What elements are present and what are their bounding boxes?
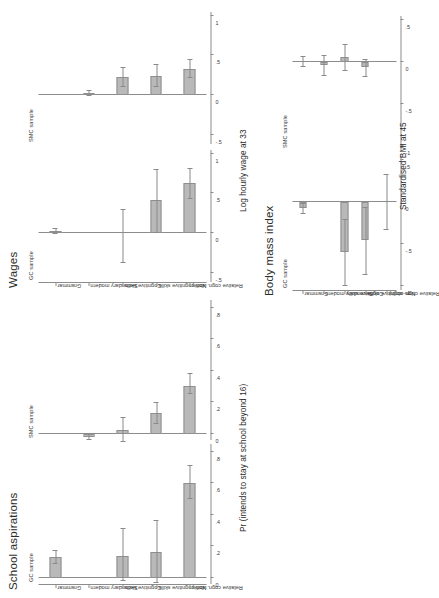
bmi-gc-plot: -1-.50.5GrammarSecondary modernCognitive… — [292, 156, 396, 290]
error-bar-cap — [362, 76, 367, 77]
axis-tick — [210, 232, 213, 233]
axis-tick-label: .5 — [215, 197, 220, 203]
category-tick — [122, 282, 123, 286]
category-label: Relative cogn. ability — [388, 291, 439, 297]
axis-tick-label: .2 — [215, 406, 220, 412]
axis-tick-label: .2 — [215, 550, 220, 556]
error-bar — [189, 374, 190, 394]
school-smc-panel: SMC sample 0.2.4.6.8 — [28, 300, 250, 440]
error-bar-cap — [120, 529, 125, 530]
error-bar — [344, 44, 345, 70]
error-bar — [122, 418, 123, 442]
error-bar-cap — [52, 563, 57, 564]
error-bar-cap — [153, 423, 158, 424]
error-bar — [323, 55, 324, 75]
error-bar-cap — [153, 403, 158, 404]
error-bar-cap — [52, 228, 57, 229]
error-bar-cap — [120, 418, 125, 419]
category-tick — [189, 282, 190, 286]
axis-tick-label: -.5 — [215, 139, 221, 145]
wages-gc-sample-label: GC sample — [27, 251, 33, 280]
group-body-mass-index: Body mass index GC sample -1-.50.5Gramma… — [262, 4, 412, 298]
error-bar-cap — [153, 86, 158, 87]
error-bar-cap — [187, 77, 192, 78]
group-school-aspirations: School aspirations GC sample 0.2.4.6.8Gr… — [6, 294, 256, 592]
wages-smc-panel: SMC sample -.50.51 — [28, 12, 250, 144]
axis-tick — [210, 94, 213, 95]
error-bar-cap — [153, 64, 158, 65]
wages-title: Wages — [6, 252, 18, 288]
error-bar — [365, 60, 366, 77]
error-bar-cap — [300, 203, 305, 204]
error-bar — [386, 174, 387, 229]
error-bar-cap — [342, 285, 347, 286]
error-bar-cap — [86, 95, 91, 96]
category-tick — [122, 584, 123, 588]
error-bar — [156, 521, 157, 582]
bmi-gc-panel: GC sample -1-.50.5GrammarSecondary moder… — [282, 156, 408, 290]
error-bar — [55, 550, 56, 563]
category-tick — [55, 282, 56, 286]
axis-tick-label: 0 — [215, 99, 218, 105]
school-smc-plot: 0.2.4.6.8 — [38, 300, 206, 440]
error-bar-cap — [120, 580, 125, 581]
axis-tick-label: .4 — [215, 375, 220, 381]
axis-tick-label: 1 — [215, 20, 218, 26]
error-bar — [365, 208, 366, 275]
axis-tick-label: -.5 — [405, 108, 411, 114]
bmi-smc-sample-label: SMC sample — [281, 115, 287, 148]
axis-tick-label: .4 — [215, 519, 220, 525]
axis-tick — [400, 243, 403, 244]
axis-tick — [210, 370, 213, 371]
wages-smc-sample-label: SMC sample — [27, 109, 33, 142]
category-tick — [344, 290, 345, 294]
axis-tick-label: 0 — [215, 237, 218, 243]
error-bar-cap — [86, 433, 91, 434]
axis-tick-label: -.5 — [215, 277, 221, 283]
axis-tick — [210, 338, 213, 339]
error-bar-cap — [383, 174, 388, 175]
error-bar — [122, 529, 123, 581]
error-bar-cap — [153, 521, 158, 522]
value-axis — [210, 12, 211, 144]
school-smc-sample-label: SMC sample — [27, 405, 33, 438]
category-label: Grammar — [57, 283, 81, 289]
category-tick — [88, 282, 89, 286]
axis-tick-label: 0 — [405, 66, 408, 72]
category-label: Relative cogn. ability — [191, 585, 242, 591]
error-bar-cap — [321, 55, 326, 56]
error-bar-cap — [187, 198, 192, 199]
error-bar-cap — [153, 582, 158, 583]
axis-tick-label: .5 — [215, 59, 220, 65]
error-bar-cap — [321, 75, 326, 76]
axis-tick — [400, 285, 403, 286]
axis-tick — [210, 272, 213, 273]
error-bar-cap — [187, 393, 192, 394]
axis-tick — [400, 103, 403, 104]
school-axis-title: Pr (intends to stay at school beyond 16) — [238, 384, 247, 532]
axis-tick-label: .6 — [215, 487, 220, 493]
school-gc-plot: 0.2.4.6.8GrammarSecondary modernCognitiv… — [38, 444, 206, 584]
axis-tick — [210, 307, 213, 308]
error-bar-cap — [342, 219, 347, 220]
error-bar — [189, 465, 190, 499]
error-bar — [156, 170, 157, 233]
bmi-gc-sample-label: GC sample — [281, 259, 287, 288]
axis-tick — [210, 545, 213, 546]
error-bar-cap — [86, 440, 91, 441]
error-bar-cap — [120, 87, 125, 88]
error-bar — [122, 209, 123, 263]
group-wages: Wages GC sample -.50.51GrammarSecondary … — [6, 4, 256, 290]
axis-tick — [210, 134, 213, 135]
axis-tick-label: .6 — [215, 343, 220, 349]
axis-tick — [210, 15, 213, 16]
bmi-axis-title: Standardised BMI at 45 — [398, 122, 407, 210]
error-bar — [302, 57, 303, 66]
school-gc-sample-label: GC sample — [27, 553, 33, 582]
axis-tick — [210, 451, 213, 452]
category-tick — [156, 282, 157, 286]
error-bar — [302, 204, 303, 214]
bmi-smc-panel: SMC sample -1-.50.5 — [282, 16, 408, 150]
error-bar-cap — [362, 208, 367, 209]
